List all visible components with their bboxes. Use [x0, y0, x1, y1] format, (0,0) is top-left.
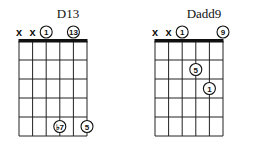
nut [19, 39, 88, 43]
finger-position-marker: ♭7 [54, 121, 66, 133]
svg-text:13: 13 [69, 28, 78, 37]
grid [19, 39, 88, 136]
svg-text:1: 1 [180, 28, 185, 37]
chord-diagram-d13: D13 xx113♭75 [0, 0, 136, 147]
svg-text:5: 5 [194, 66, 199, 75]
muted-string-icon: x [16, 26, 23, 38]
finger-position-marker: 5 [81, 121, 93, 133]
svg-text:1: 1 [207, 85, 212, 94]
open-string-marker: 1 [176, 26, 188, 38]
muted-string-icon: x [30, 26, 37, 38]
finger-position-marker: 1 [203, 83, 215, 95]
svg-text:♭7: ♭7 [56, 123, 65, 132]
muted-string-icon: x [152, 26, 159, 38]
fretboard: xx1951 [136, 0, 272, 147]
open-string-marker: 9 [217, 26, 229, 38]
chord-diagram-dadd9: Dadd9 xx1951 [136, 0, 272, 147]
finger-position-marker: 5 [190, 64, 202, 76]
svg-text:1: 1 [44, 28, 49, 37]
svg-text:5: 5 [85, 123, 90, 132]
open-string-marker: 13 [67, 26, 79, 38]
svg-text:9: 9 [221, 28, 226, 37]
muted-string-icon: x [166, 26, 173, 38]
nut [155, 39, 224, 43]
fretboard: xx113♭75 [0, 0, 136, 147]
open-string-marker: 1 [40, 26, 52, 38]
